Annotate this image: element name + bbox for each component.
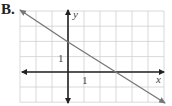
y-axis-label: y [72, 8, 78, 20]
y-tick-label: 1 [58, 52, 64, 64]
x-tick-label: 1 [82, 74, 88, 86]
coordinate-plane: y x 1 1 [0, 0, 172, 106]
x-axis-label: x [155, 73, 161, 85]
